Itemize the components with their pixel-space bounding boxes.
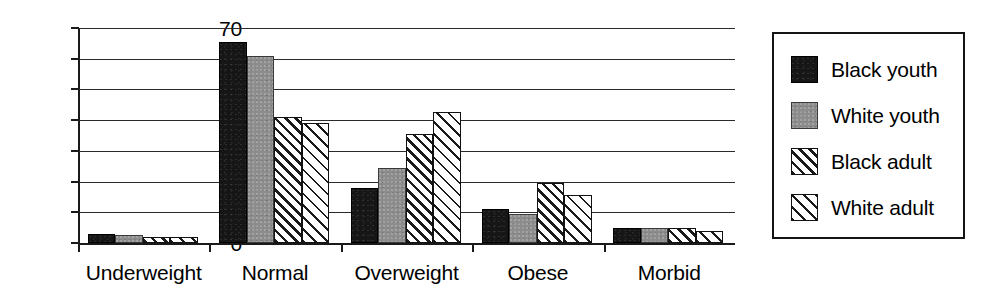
legend-swatch-icon-white-youth (791, 102, 818, 129)
y-tick-mark-70 (71, 27, 79, 29)
legend-item-black-youth[interactable]: Black youth (791, 47, 963, 91)
legend-label: Black adult (831, 151, 932, 172)
y-tick-mark-0 (71, 242, 79, 244)
y-tick-mark-30 (71, 150, 79, 152)
legend-items: Black youthWhite youthBlack adultWhite a… (791, 47, 963, 229)
legend-swatch-icon-black-adult (791, 148, 818, 175)
bar-underweight-white-youth (115, 235, 143, 243)
bar-overweight-black-adult (406, 134, 434, 243)
legend-item-black-adult[interactable]: Black adult (791, 139, 963, 183)
legend-label: White youth (831, 105, 940, 126)
bar-morbid-white-adult (696, 231, 724, 243)
bar-obese-black-youth (482, 209, 510, 243)
bar-obese-white-youth (509, 214, 537, 243)
x-tick-label-normal: Normal (242, 262, 308, 283)
bar-morbid-white-youth (641, 228, 669, 243)
y-tick-mark-40 (71, 119, 79, 121)
y-tick-mark-10 (71, 211, 79, 213)
bar-group-underweight (88, 28, 198, 243)
bar-group-normal (219, 28, 329, 243)
plot-area (78, 28, 735, 243)
bar-overweight-black-youth (351, 188, 379, 243)
x-axis-line (78, 243, 735, 245)
bar-obese-white-adult (564, 195, 592, 243)
bar-overweight-white-youth (378, 168, 406, 243)
bar-underweight-white-adult (170, 237, 198, 243)
y-axis-line (78, 28, 80, 252)
legend-item-white-adult[interactable]: White adult (791, 185, 963, 229)
legend-label: White adult (831, 197, 934, 218)
y-tick-mark-60 (71, 58, 79, 60)
bar-morbid-black-adult (668, 228, 696, 243)
legend-swatch-icon-white-adult (791, 194, 818, 221)
x-tick-label-morbid: Morbid (638, 262, 701, 283)
legend-swatch-icon-black-youth (791, 56, 818, 83)
bar-group-morbid (613, 28, 723, 243)
bmi-category-bar-chart: 010203040506070 UnderweightNormalOverwei… (0, 0, 985, 303)
x-tick-mark-3 (472, 243, 474, 252)
bar-underweight-black-adult (143, 237, 171, 243)
bar-obese-black-adult (537, 183, 565, 243)
bar-normal-white-adult (302, 123, 330, 243)
bar-normal-white-youth (247, 56, 275, 243)
x-tick-label-overweight: Overweight (354, 262, 458, 283)
x-tick-label-obese: Obese (507, 262, 568, 283)
x-tick-label-underweight: Underweight (86, 262, 202, 283)
bar-morbid-black-youth (613, 228, 641, 243)
legend: Black youthWhite youthBlack adultWhite a… (772, 32, 965, 239)
legend-item-white-youth[interactable]: White youth (791, 93, 963, 137)
bar-underweight-black-youth (88, 234, 116, 243)
bar-group-obese (482, 28, 592, 243)
bar-normal-black-adult (274, 117, 302, 243)
bar-group-overweight (351, 28, 461, 243)
x-tick-mark-1 (209, 243, 211, 252)
bar-overweight-white-adult (433, 112, 461, 243)
x-tick-mark-2 (341, 243, 343, 252)
bar-normal-black-youth (219, 42, 247, 243)
legend-label: Black youth (831, 59, 937, 80)
x-tick-mark-4 (604, 243, 606, 252)
y-tick-mark-20 (71, 181, 79, 183)
y-tick-mark-50 (71, 88, 79, 90)
